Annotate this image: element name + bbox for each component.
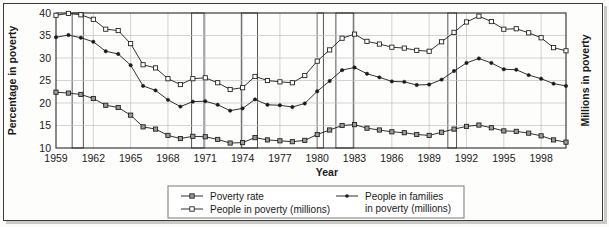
data-point-open-square: [464, 20, 468, 24]
data-point-open-square: [265, 78, 269, 82]
data-point-gray-square: [116, 105, 120, 109]
data-point-gray-square: [178, 136, 182, 140]
data-point-gray-square: [240, 141, 244, 145]
data-point-filled-circle: [415, 83, 418, 86]
data-point-filled-circle: [191, 100, 194, 103]
x-tick-label: 1995: [492, 152, 516, 164]
data-point-open-square: [216, 81, 220, 85]
data-point-open-square: [203, 76, 207, 80]
data-point-gray-square: [365, 126, 369, 130]
data-point-open-square: [54, 13, 58, 17]
x-tick-label: 1968: [156, 152, 180, 164]
data-point-gray-square: [502, 129, 506, 133]
data-point-filled-circle: [303, 102, 306, 105]
x-tick-label: 1992: [455, 152, 479, 164]
data-point-filled-circle: [490, 61, 493, 64]
x-tick-label: 1980: [306, 152, 330, 164]
data-point-gray-square: [527, 131, 531, 135]
data-point-filled-circle: [539, 77, 542, 80]
data-point-filled-circle: [452, 69, 455, 72]
data-point-open-square: [539, 36, 543, 40]
data-point-filled-circle: [278, 104, 281, 107]
data-point-gray-square: [415, 132, 419, 136]
data-point-gray-square: [278, 139, 282, 143]
data-point-gray-square: [141, 125, 145, 129]
poverty-chart-figure: 1015202530354019591962196519681971197419…: [0, 0, 609, 227]
data-point-open-square: [340, 36, 344, 40]
data-point-filled-circle: [166, 98, 169, 101]
data-point-filled-circle: [241, 107, 244, 110]
data-point-open-square: [166, 77, 170, 81]
chart-legend: Poverty ratePeople in poverty (millions)…: [168, 186, 464, 218]
data-point-open-square: [352, 32, 356, 36]
data-point-gray-square: [340, 123, 344, 127]
y-tick-label: 20: [39, 97, 51, 109]
data-point-gray-square: [352, 123, 356, 127]
y-tick-label: 15: [39, 119, 51, 131]
data-point-gray-square: [91, 96, 95, 100]
data-point-filled-circle: [552, 82, 555, 85]
data-point-gray-square: [564, 140, 568, 144]
y-axis-title-left: Percentage in poverty: [6, 25, 18, 135]
data-point-filled-circle: [204, 100, 207, 103]
legend-label: People in poverty (millions): [210, 204, 330, 215]
data-point-open-square: [129, 42, 133, 46]
data-point-open-square: [452, 30, 456, 34]
data-point-gray-square: [166, 133, 170, 137]
x-axis-title: Year: [316, 166, 338, 178]
data-point-filled-circle: [79, 36, 82, 39]
data-point-open-square: [303, 73, 307, 77]
data-point-gray-square: [402, 131, 406, 135]
data-point-open-square: [141, 63, 145, 67]
x-tick-label: 1989: [417, 152, 441, 164]
data-point-open-square: [278, 80, 282, 84]
data-point-gray-square: [79, 92, 83, 96]
data-point-open-square: [365, 39, 369, 43]
data-point-open-square: [228, 87, 232, 91]
data-point-gray-square: [315, 132, 319, 136]
data-point-gray-square: [66, 91, 70, 95]
data-point-open-square: [91, 17, 95, 21]
data-point-open-square: [377, 42, 381, 46]
data-point-gray-square: [290, 140, 294, 144]
data-point-gray-square: [253, 136, 257, 140]
legend-label-line2: in poverty (millions): [365, 203, 451, 214]
y-tick-label: 40: [39, 7, 51, 19]
data-point-gray-square: [452, 127, 456, 131]
data-point-gray-square: [551, 138, 555, 142]
data-point-filled-circle: [465, 61, 468, 64]
data-point-filled-circle: [266, 103, 269, 106]
data-point-filled-circle: [378, 76, 381, 79]
data-point-open-square: [514, 27, 518, 31]
data-point-gray-square: [514, 129, 518, 133]
data-point-gray-square: [153, 127, 157, 131]
data-point-filled-circle: [291, 105, 294, 108]
x-tick-label: 1977: [268, 152, 292, 164]
data-point-open-square: [178, 82, 182, 86]
legend-label: Poverty rate: [210, 191, 264, 202]
data-point-open-square: [240, 86, 244, 90]
data-point-filled-circle: [564, 84, 567, 87]
data-point-gray-square: [377, 128, 381, 132]
data-point-gray-square: [303, 138, 307, 142]
data-point-filled-circle: [527, 73, 530, 76]
data-point-open-square: [551, 46, 555, 50]
data-point-filled-circle: [253, 98, 256, 101]
data-point-gray-square: [191, 134, 195, 138]
data-point-open-square: [191, 77, 195, 81]
data-point-filled-circle: [67, 33, 70, 36]
legend-marker-open-square: [190, 207, 194, 211]
data-point-open-square: [427, 49, 431, 53]
data-point-open-square: [477, 14, 481, 18]
data-point-filled-circle: [179, 105, 182, 108]
legend-marker-gray-square: [190, 194, 194, 198]
data-point-filled-circle: [54, 36, 57, 39]
data-point-gray-square: [216, 137, 220, 141]
data-point-gray-square: [228, 141, 232, 145]
data-point-filled-circle: [104, 50, 107, 53]
data-point-open-square: [489, 19, 493, 23]
data-point-open-square: [79, 13, 83, 17]
data-point-filled-circle: [440, 78, 443, 81]
y-tick-label: 25: [39, 74, 51, 86]
data-point-filled-circle: [502, 68, 505, 71]
